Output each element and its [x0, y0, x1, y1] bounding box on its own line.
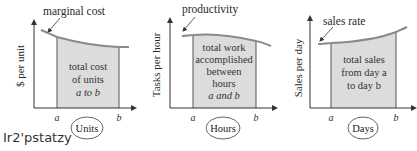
area-text-line: total sales	[343, 54, 385, 65]
curve-label: marginal cost	[43, 5, 106, 18]
label-pointer-arrow	[184, 17, 195, 30]
panel-sales-rate: sales rate Sales per day total sales fro…	[292, 15, 414, 139]
y-axis-label: Sales per day	[292, 38, 304, 97]
tick-a: a	[329, 112, 334, 123]
label-pointer-arrow	[321, 27, 333, 40]
area-text-line: accomplished	[195, 54, 253, 65]
area-text-line: hours	[212, 78, 235, 89]
tick-a: a	[55, 112, 60, 123]
area-text-line: total work	[203, 42, 247, 53]
panel-productivity: productivity Tasks per hour total work a…	[150, 3, 275, 139]
x-axis-label-circled: Days	[352, 123, 374, 134]
curve-label: sales rate	[323, 15, 365, 27]
tick-b: b	[254, 112, 259, 123]
y-axis-label: Tasks per hour	[150, 32, 162, 97]
x-axis-label-circled: Hours	[210, 123, 236, 134]
area-text-line: to day b	[347, 80, 381, 91]
y-axis-label: $ per unit	[14, 45, 26, 87]
area-text-line: total cost	[69, 61, 107, 72]
area-text-line: between	[207, 66, 243, 77]
area-text-line: a to b	[76, 87, 100, 98]
label-pointer-arrow	[49, 18, 60, 31]
panel-marginal-cost: marginal cost $ per unit total cost of u…	[3, 5, 134, 145]
area-text-line: from day a	[341, 67, 387, 78]
tick-a: a	[191, 112, 196, 123]
curve-label: productivity	[182, 3, 238, 16]
tick-b: b	[117, 112, 122, 123]
tick-b: b	[394, 112, 399, 123]
handwritten-note: Ir2'pstatzy	[3, 130, 72, 145]
area-text-line: of units	[72, 74, 104, 85]
x-axis-label-circled: Units	[76, 123, 99, 134]
area-text-line: a and b	[208, 90, 240, 101]
figure-canvas: marginal cost $ per unit total cost of u…	[0, 0, 417, 151]
